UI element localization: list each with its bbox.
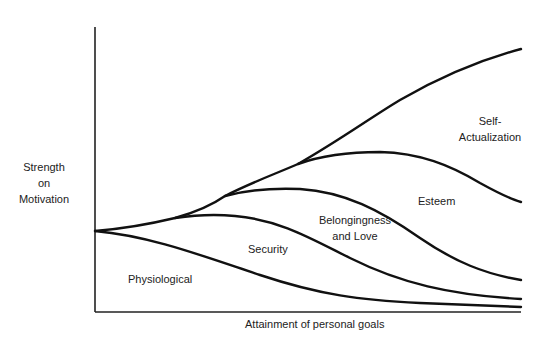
y-axis-label: Strength on Motivation	[6, 159, 82, 207]
x-axis-label: Attainment of personal goals	[245, 316, 384, 332]
region-label-belongingness-line1: Belongingness	[299, 212, 411, 228]
region-label-self-actualization-line1: Self-	[444, 113, 536, 129]
region-label-physiological: Physiological	[128, 271, 192, 287]
region-label-self-actualization: Self- Actualization	[444, 113, 536, 145]
y-axis-label-line1: Strength	[6, 159, 82, 175]
y-axis-label-line3: Motivation	[6, 191, 82, 207]
region-label-belongingness: Belongingness and Love	[299, 212, 411, 244]
y-axis-label-line2: on	[6, 175, 82, 191]
region-label-esteem: Esteem	[418, 193, 455, 209]
region-label-security: Security	[248, 241, 288, 257]
region-label-belongingness-line2: and Love	[299, 228, 411, 244]
region-label-self-actualization-line2: Actualization	[444, 129, 536, 145]
motivation-chart	[0, 0, 551, 344]
